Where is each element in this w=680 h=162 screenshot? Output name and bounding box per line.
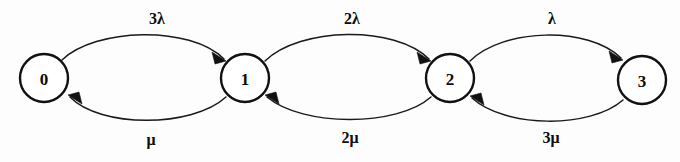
state-transition-diagram: 3λ 2λ λ μ 2μ 3μ xyxy=(0,0,680,162)
state-node-1[interactable]: 1 xyxy=(221,54,269,102)
edge-1-to-2-path xyxy=(265,34,429,61)
edge-1-to-0-path xyxy=(70,97,226,120)
state-node-2[interactable]: 2 xyxy=(426,54,474,102)
edge-1-to-2: 2λ xyxy=(265,10,431,64)
state-0-label: 0 xyxy=(40,70,49,89)
edge-1-to-2-label: 2λ xyxy=(344,10,360,27)
edge-1-to-0-label: μ xyxy=(146,131,155,149)
markov-chain-canvas: 3λ 2λ λ μ 2μ 3μ xyxy=(0,0,680,162)
state-node-3[interactable]: 3 xyxy=(618,56,666,104)
edge-2-to-1-path xyxy=(267,97,431,120)
edge-3-to-2: 3μ xyxy=(470,93,623,147)
edge-3-to-2-path xyxy=(472,98,623,121)
edge-0-to-1-label: 3λ xyxy=(149,10,165,27)
state-2-label: 2 xyxy=(446,70,455,89)
edge-2-to-3-path xyxy=(470,35,621,61)
edge-0-to-1-path xyxy=(62,35,224,60)
state-1-label: 1 xyxy=(241,70,250,89)
state-node-0[interactable]: 0 xyxy=(20,54,68,102)
edge-1-to-0: μ xyxy=(68,92,226,149)
edge-2-to-3-label: λ xyxy=(548,10,556,27)
state-3-label: 3 xyxy=(638,72,647,91)
edge-2-to-3: λ xyxy=(470,10,623,63)
edge-2-to-1: 2μ xyxy=(265,92,431,147)
edge-3-to-2-label: 3μ xyxy=(542,129,559,147)
edge-2-to-1-label: 2μ xyxy=(341,129,358,147)
edge-0-to-1: 3λ xyxy=(62,10,226,64)
